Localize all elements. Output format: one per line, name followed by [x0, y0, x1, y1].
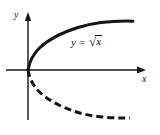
radicand: x [95, 35, 102, 48]
graph-canvas [0, 0, 160, 135]
curve-sqrt-negative-branch [28, 70, 130, 118]
x-axis-label: x [142, 74, 146, 84]
math-graph-figure: y x y = √ x [0, 0, 160, 135]
curve-equation-label: y = √ x [71, 36, 102, 49]
square-root-expression: √ x [89, 36, 102, 49]
equation-lhs: y [71, 37, 76, 48]
y-axis-arrowhead-icon [25, 12, 31, 21]
y-axis-label: y [14, 10, 18, 20]
equation-equals-sign: = [79, 37, 85, 48]
